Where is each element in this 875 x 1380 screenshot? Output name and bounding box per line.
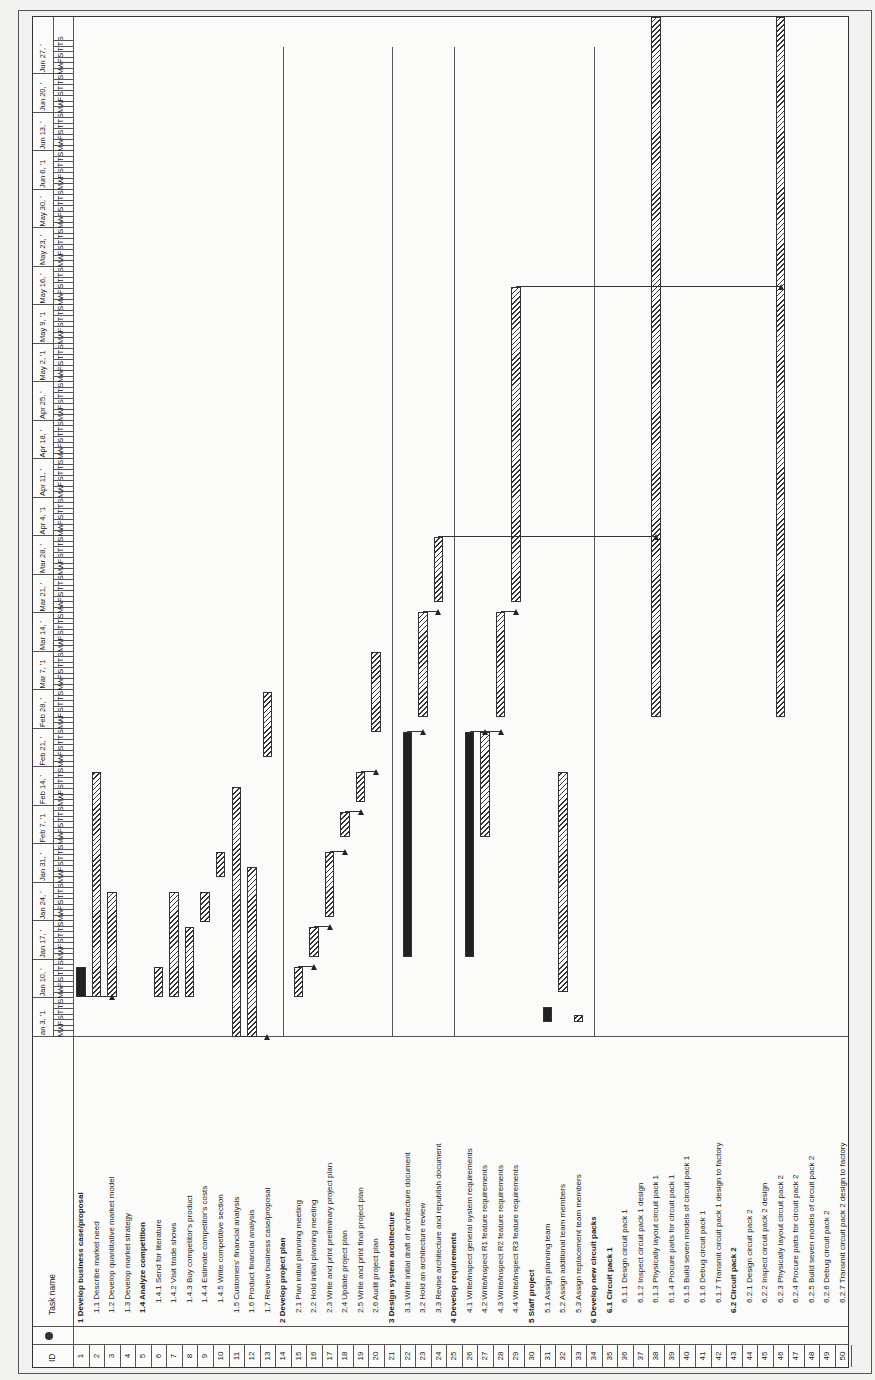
task-name[interactable]: 6.2.6 Debug circuit pack 2 — [819, 1211, 835, 1304]
gantt-bar[interactable] — [92, 772, 102, 997]
task-name[interactable]: 3 Design system architecture — [384, 1212, 400, 1323]
gantt-bar[interactable] — [465, 732, 475, 957]
task-name[interactable]: 4.3 Write/inspect R2 feature requirement… — [493, 1165, 509, 1313]
task-name[interactable]: 4 Develop requirements — [446, 1232, 462, 1323]
task-name[interactable]: 6.1.2 Inspect circuit pack 1 design — [633, 1182, 649, 1303]
task-name[interactable]: 4.1 Write/inspect general system require… — [462, 1148, 478, 1313]
task-name[interactable]: 6.1.7 Transmit circuit pack 1 design to … — [711, 1142, 727, 1303]
id-row-line — [633, 1345, 634, 1367]
task-name[interactable]: 6.1 Circuit pack 1 — [602, 1247, 618, 1313]
gantt-bar[interactable] — [496, 612, 506, 717]
task-name[interactable]: 6.1.5 Build seven models of circuit pack… — [679, 1156, 695, 1303]
task-name[interactable]: 6.2.4 Procure parts for circuit pack 2 — [788, 1175, 804, 1304]
task-name[interactable]: 3.2 Hold an architecture review — [415, 1203, 431, 1313]
gantt-bar[interactable] — [356, 772, 366, 802]
task-id: 8 — [185, 1345, 194, 1367]
gantt-bar[interactable] — [403, 732, 413, 957]
gantt-bar[interactable] — [169, 892, 179, 997]
task-name[interactable]: 1.4.4 Estimate competitor's costs — [197, 1186, 213, 1303]
task-name[interactable]: 6.2.3 Physically layout circuit pack 2 — [773, 1175, 789, 1303]
gantt-bar[interactable] — [480, 732, 490, 837]
task-name[interactable]: 1.7 Review business case/proposal — [260, 1188, 276, 1313]
task-name[interactable]: 1.6 Product financial analysis — [244, 1209, 260, 1313]
day-divider — [53, 624, 73, 625]
task-name[interactable]: 1.3 Develop market strategy — [120, 1213, 136, 1313]
gantt-bar[interactable] — [216, 852, 226, 877]
week-divider — [33, 74, 73, 75]
gantt-bar[interactable] — [200, 892, 210, 922]
task-name[interactable]: 5.3 Assign replacement team members — [571, 1174, 587, 1313]
day-divider — [53, 68, 73, 69]
day-divider — [53, 915, 73, 916]
id-row-line — [711, 1345, 712, 1367]
task-name[interactable]: 5 Staff project — [524, 1270, 540, 1323]
gantt-bar[interactable] — [232, 787, 242, 1037]
gantt-bar[interactable] — [185, 927, 195, 997]
day-divider — [53, 679, 73, 680]
task-name[interactable]: 1.4.3 Buy competitor's product — [182, 1195, 198, 1303]
task-name[interactable]: 2 Develop project plan — [275, 1238, 291, 1323]
task-name[interactable]: 1.4.5 Write competitive section — [213, 1194, 229, 1303]
task-name[interactable]: 6.2.7 Transmit circuit pack 2 design to … — [835, 1142, 851, 1303]
id-row-line — [275, 1345, 276, 1367]
gantt-bar[interactable] — [434, 537, 444, 602]
task-id: 6 — [154, 1345, 163, 1367]
week-divider — [33, 690, 73, 691]
gantt-bar[interactable] — [558, 772, 568, 992]
task-name[interactable]: 6.1.3 Physically layout circuit pack 1 — [648, 1175, 664, 1303]
task-name[interactable]: 6.1.1 Design circuit pack 1 — [617, 1209, 633, 1303]
task-name[interactable]: 2.6 Audit project plan — [368, 1238, 384, 1313]
gantt-bar[interactable] — [309, 927, 319, 957]
week-label: Jan 31, ' — [38, 853, 47, 881]
task-name[interactable]: 6.2.1 Design circuit pack 2 — [742, 1209, 758, 1303]
task-name[interactable]: 5.1 Assign planning team — [540, 1224, 556, 1313]
gantt-bar[interactable] — [371, 652, 381, 732]
task-name[interactable]: 1.2 Develop quantitative market model — [104, 1176, 120, 1313]
gantt-bar[interactable] — [76, 967, 86, 997]
task-name[interactable]: 4.2 Write/inspect R1 feature requirement… — [477, 1165, 493, 1313]
dependency-arrow — [109, 994, 115, 1000]
task-name[interactable]: 1 Develop business case/proposal — [73, 1192, 89, 1323]
gantt-bar[interactable] — [418, 612, 428, 717]
task-name[interactable]: 1.4 Analyze competition — [135, 1222, 151, 1313]
gantt-bar[interactable] — [574, 1015, 584, 1022]
task-id: 39 — [667, 1345, 676, 1367]
gantt-bar[interactable] — [263, 692, 273, 757]
task-name[interactable]: 2.4 Update project plan — [337, 1230, 353, 1313]
task-id: 31 — [543, 1345, 552, 1367]
day-divider — [53, 1025, 73, 1026]
gantt-bar[interactable] — [543, 1007, 553, 1022]
id-row-line — [415, 1345, 416, 1367]
task-name[interactable]: 2.1 Plan initial planning meeting — [291, 1200, 307, 1313]
gantt-bar[interactable] — [325, 852, 335, 917]
gantt-bar[interactable] — [154, 967, 164, 997]
task-name[interactable]: 1.4.2 Visit trade shows — [166, 1223, 182, 1303]
gantt-bar[interactable] — [340, 812, 350, 837]
task-name[interactable]: 1.5 Customers' financial analysis — [229, 1197, 245, 1313]
task-name[interactable]: 1.4.1 Send for literature — [151, 1219, 167, 1303]
task-name[interactable]: 2.3 Write and print preliminary project … — [322, 1163, 338, 1313]
task-name[interactable]: 6.1.4 Procure parts for circuit pack 1 — [664, 1175, 680, 1304]
task-name[interactable]: 6 Develop new circuit packs — [586, 1216, 602, 1323]
day-divider — [53, 965, 73, 966]
task-name[interactable]: 6.1.6 Debug circuit pack 1 — [695, 1211, 711, 1304]
task-name[interactable]: 1.1 Describe market need — [89, 1221, 105, 1313]
gantt-bar[interactable] — [247, 867, 257, 1037]
task-name[interactable]: 4.4 Write/inspect R3 feature requirement… — [508, 1165, 524, 1313]
task-name[interactable]: 3.1 Write initial draft of architecture … — [400, 1152, 416, 1313]
gantt-bar[interactable] — [651, 17, 661, 717]
task-name[interactable]: 2.5 Write and print final project plan — [353, 1187, 369, 1313]
gantt-bar[interactable] — [107, 892, 117, 997]
day-divider — [53, 90, 73, 91]
task-name[interactable]: 3.3 Revise architecture and republish do… — [431, 1144, 447, 1313]
week-label: Feb 14, ' — [38, 775, 47, 804]
day-divider — [53, 272, 73, 273]
task-name[interactable]: 2.2 Hold initial planning meeting — [306, 1200, 322, 1313]
task-name[interactable]: 6.2.5 Build seven models of circuit pack… — [804, 1156, 820, 1303]
task-name[interactable]: 5.2 Assign additional team members — [555, 1184, 571, 1313]
gantt-bar[interactable] — [511, 287, 521, 602]
task-name[interactable]: 6.2.2 Inspect circuit pack 2 design — [757, 1182, 773, 1303]
task-name[interactable]: 6.2 Circuit pack 2 — [726, 1247, 742, 1313]
gantt-bar[interactable] — [776, 17, 786, 717]
gantt-bar[interactable] — [294, 967, 304, 997]
